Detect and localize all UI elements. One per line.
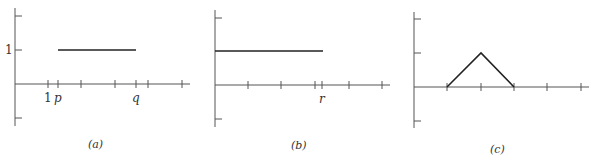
panel-b: r (b) bbox=[215, 10, 390, 152]
panel-a-x-label-p: p bbox=[54, 91, 62, 105]
panel-c-hat-function bbox=[447, 53, 514, 87]
panel-b-caption: (b) bbox=[291, 139, 307, 152]
panel-a-caption: (a) bbox=[88, 138, 103, 151]
panel-a-y-label-1: 1 bbox=[5, 43, 13, 57]
panel-b-x-label-r: r bbox=[319, 92, 326, 106]
panel-c-caption: (c) bbox=[490, 143, 505, 156]
panel-a: 1 1 p q (a) bbox=[5, 8, 190, 151]
panel-c: (c) bbox=[414, 12, 589, 156]
figure: 1 1 p q (a) r (b) (c) bbox=[0, 0, 594, 161]
panel-a-x-label-1: 1 bbox=[44, 91, 52, 105]
panel-a-x-label-q: q bbox=[132, 91, 140, 105]
